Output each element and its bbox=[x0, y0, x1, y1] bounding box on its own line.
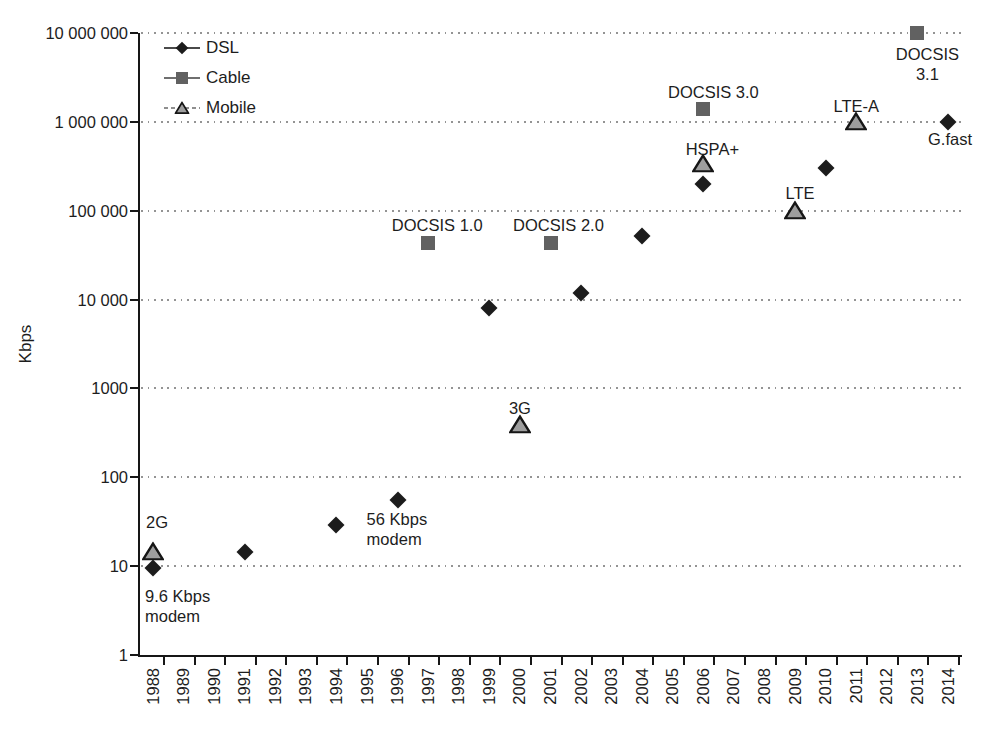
x-tick-mark bbox=[224, 657, 226, 665]
legend-label-dsl: DSL bbox=[206, 38, 239, 58]
x-tick-label: 2010 bbox=[816, 668, 836, 720]
y-tick-label: 1 000 000 bbox=[28, 113, 128, 131]
x-tick-label-text: 2002 bbox=[572, 668, 591, 705]
x-tick-label-text: 1992 bbox=[266, 668, 285, 705]
x-tick-label-text: 2006 bbox=[694, 668, 713, 705]
x-tick-label-text: 2007 bbox=[724, 668, 743, 705]
gridline-100000 bbox=[141, 210, 962, 212]
label-lte-a: LTE-A bbox=[833, 96, 879, 116]
x-tick-label-text: 2001 bbox=[541, 668, 560, 705]
x-tick-mark bbox=[713, 657, 715, 665]
x-tick-mark bbox=[316, 657, 318, 665]
legend-label-mobile: Mobile bbox=[206, 98, 256, 118]
x-tick-mark bbox=[438, 657, 440, 665]
y-tick-label: 10 000 bbox=[28, 291, 128, 309]
x-tick-mark bbox=[775, 657, 777, 665]
x-tick-label-text: 1997 bbox=[419, 668, 438, 705]
x-tick-label-text: 1995 bbox=[358, 668, 377, 705]
x-axis-line bbox=[138, 655, 962, 657]
x-tick-label: 1989 bbox=[174, 668, 194, 720]
y-tick-mark bbox=[130, 476, 138, 478]
legend: DSL Cable Mobile bbox=[164, 33, 256, 123]
x-tick-mark bbox=[408, 657, 410, 665]
x-tick-label: 2002 bbox=[571, 668, 591, 720]
label-docsis-2.0: DOCSIS 2.0 bbox=[513, 215, 604, 235]
x-tick-mark bbox=[285, 657, 287, 665]
x-tick-label-text: 1996 bbox=[388, 668, 407, 705]
x-tick-mark bbox=[866, 657, 868, 665]
x-tick-label: 1994 bbox=[326, 668, 346, 720]
y-tick-mark bbox=[130, 654, 138, 656]
point-cable-2001 bbox=[544, 236, 558, 250]
x-tick-label-text: 1999 bbox=[480, 668, 499, 705]
label-56-kbps-modem: 56 Kbps modem bbox=[367, 509, 428, 549]
label-docsis-3.0: DOCSIS 3.0 bbox=[668, 82, 759, 102]
x-tick-label: 2011 bbox=[846, 668, 866, 720]
label-lte: LTE bbox=[786, 183, 815, 203]
label-hspa+: HSPA+ bbox=[686, 139, 739, 159]
point-cable-1997 bbox=[421, 236, 435, 250]
x-tick-mark bbox=[530, 657, 532, 665]
x-tick-label-text: 1988 bbox=[144, 668, 163, 705]
cable-square-marker-icon bbox=[164, 68, 200, 88]
gridline-10000 bbox=[141, 299, 962, 301]
x-tick-label: 1998 bbox=[449, 668, 469, 720]
y-tick-label: 1 bbox=[28, 646, 128, 664]
x-tick-label-text: 1993 bbox=[296, 668, 315, 705]
y-tick-mark bbox=[130, 565, 138, 567]
x-tick-label: 1996 bbox=[388, 668, 408, 720]
legend-label-cable: Cable bbox=[206, 68, 250, 88]
y-tick-label: 10 000 000 bbox=[28, 24, 128, 42]
point-dsl-1999 bbox=[481, 300, 498, 317]
x-tick-label: 2008 bbox=[755, 668, 775, 720]
x-tick-mark bbox=[927, 657, 929, 665]
x-tick-label: 1988 bbox=[143, 668, 163, 720]
point-cable-2013 bbox=[910, 26, 924, 40]
y-tick-mark bbox=[130, 299, 138, 301]
point-mobile-1988 bbox=[142, 542, 164, 561]
x-tick-label: 2012 bbox=[877, 668, 897, 720]
y-tick-label: 10 bbox=[28, 557, 128, 575]
y-tick-label: 1000 bbox=[28, 379, 128, 397]
x-tick-label-text: 2010 bbox=[816, 668, 835, 705]
x-tick-label: 2003 bbox=[602, 668, 622, 720]
x-tick-label-text: 1998 bbox=[449, 668, 468, 705]
dsl-diamond-marker-icon bbox=[164, 38, 200, 58]
x-tick-mark bbox=[561, 657, 563, 665]
gridline-1000 bbox=[141, 387, 962, 389]
label-3g: 3G bbox=[509, 398, 531, 418]
x-tick-label: 2014 bbox=[938, 668, 958, 720]
x-tick-label-text: 2008 bbox=[755, 668, 774, 705]
x-tick-label-text: 2005 bbox=[663, 668, 682, 705]
x-tick-label-text: 2013 bbox=[908, 668, 927, 705]
x-tick-label: 1997 bbox=[418, 668, 438, 720]
x-tick-label-text: 2011 bbox=[847, 668, 866, 703]
y-tick-label: 100 bbox=[28, 468, 128, 486]
x-tick-mark bbox=[346, 657, 348, 665]
x-tick-label: 2006 bbox=[693, 668, 713, 720]
x-tick-label: 1999 bbox=[479, 668, 499, 720]
point-dsl-2010 bbox=[817, 160, 834, 177]
x-tick-label: 1991 bbox=[235, 668, 255, 720]
y-tick-label: 100 000 bbox=[28, 202, 128, 220]
x-tick-mark bbox=[255, 657, 257, 665]
point-cable-2006 bbox=[696, 102, 710, 116]
x-tick-label-text: 1990 bbox=[205, 668, 224, 705]
x-tick-label-text: 2014 bbox=[939, 668, 958, 705]
gridline-100 bbox=[141, 476, 962, 478]
x-tick-mark bbox=[591, 657, 593, 665]
x-tick-label: 2000 bbox=[510, 668, 530, 720]
y-tick-mark bbox=[130, 387, 138, 389]
x-tick-mark bbox=[194, 657, 196, 665]
x-tick-label-text: 1991 bbox=[235, 668, 254, 705]
legend-item-mobile: Mobile bbox=[164, 93, 256, 123]
gridline-10 bbox=[141, 565, 962, 567]
x-tick-mark bbox=[163, 657, 165, 665]
y-tick-mark bbox=[130, 121, 138, 123]
y-axis-line bbox=[138, 33, 140, 657]
x-tick-label: 1992 bbox=[265, 668, 285, 720]
y-tick-mark bbox=[130, 210, 138, 212]
x-tick-mark bbox=[652, 657, 654, 665]
x-tick-label: 1993 bbox=[296, 668, 316, 720]
point-dsl-2004 bbox=[634, 227, 651, 244]
